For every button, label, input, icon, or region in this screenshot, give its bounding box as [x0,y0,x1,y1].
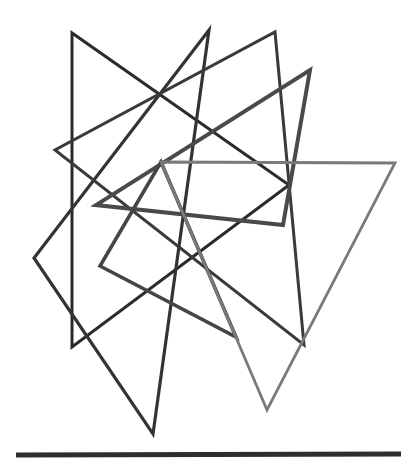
baseline-rule [16,454,401,455]
geometric-figure-canvas [0,0,417,467]
canvas-background [0,0,417,467]
